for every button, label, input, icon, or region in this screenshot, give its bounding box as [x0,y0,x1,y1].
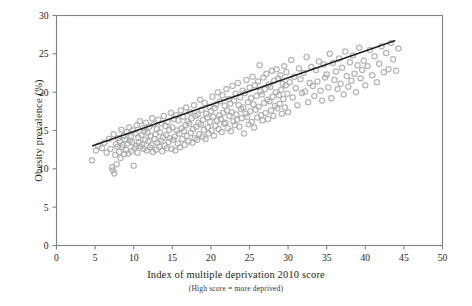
scatter-point [255,79,260,84]
scatter-point [286,110,291,115]
scatter-point [254,93,259,98]
scatter-point [235,80,240,85]
scatter-point [220,93,225,98]
x-tick-label: 0 [54,252,59,263]
scatter-point [234,112,239,117]
scatter-point [119,127,124,132]
scatter-point [349,78,354,83]
scatter-point [228,129,233,134]
scatter-point [279,87,284,92]
scatter-point [343,49,348,54]
scatter-point [340,65,345,70]
x-axis-title: Index of multiple deprivation 2010 score [0,269,472,280]
scatter-point [224,87,229,92]
scatter-point [244,77,249,82]
scatter-point [206,131,211,136]
scatter-point [184,105,189,110]
y-tick-label: 0 [44,240,49,251]
scatter-point [355,63,360,68]
scatter-point [319,98,324,103]
scatter-point [225,126,230,131]
scatter-point [293,86,298,91]
scatter-point [247,85,252,90]
scatter-point [216,126,221,131]
y-tick-label: 5 [44,202,49,213]
scatter-point [210,94,215,99]
scatter-point [353,90,358,95]
scatter-point [295,103,300,108]
scatter-point [344,73,349,78]
scatter-point [312,93,317,98]
scatter-point-group [89,41,401,177]
scatter-point [304,54,309,59]
scatter-point [338,81,343,86]
x-tick-label: 25 [245,252,255,263]
scatter-point [256,104,261,109]
x-tick-label: 5 [93,252,98,263]
scatter-point [307,80,312,85]
scatter-point [396,46,401,51]
scatter-point [150,116,155,121]
scatter-point [296,66,301,71]
scatter-point [298,77,303,82]
scatter-point [211,133,216,138]
scatter-point [114,162,119,167]
plot-canvas: 05101520253035404550 051015202530 [0,0,472,306]
scatter-point [306,100,311,105]
scatter-point [327,51,332,56]
scatter-point [279,111,284,116]
scatter-point [253,107,258,112]
scatter-point [360,67,365,72]
scatter-point [260,118,265,123]
trend-line-segment [93,41,395,146]
scatter-point [326,85,331,90]
x-tick-label: 35 [322,252,332,263]
scatter-point [248,96,253,101]
scatter-point [209,128,214,133]
scatter-point [394,68,399,73]
scatter-point [290,95,295,100]
scatter-point [242,131,247,136]
scatter-point [131,163,136,168]
scatter-point [230,83,235,88]
x-tick-label: 40 [361,252,371,263]
scatter-point [89,158,94,163]
scatter-point [191,103,196,108]
scatter-point [168,110,173,115]
scatter-point [352,71,357,76]
scatter-point [281,96,286,101]
scatter-point [178,108,183,113]
scatter-point [277,101,282,106]
scatter-point [137,119,142,124]
scatter-point [390,57,395,62]
scatter-point [257,63,262,68]
trend-line [93,41,395,146]
scatter-point [252,125,257,130]
scatter-point [377,61,382,66]
scatter-point [263,110,268,115]
scatter-point [361,58,366,63]
scatter-point [208,119,213,124]
scatter-point [273,90,278,95]
scatter-point [135,150,140,155]
scatter-point [347,60,352,65]
scatter-point [251,102,256,107]
scatter-point [333,69,338,74]
x-tick-label: 50 [438,252,448,263]
scatter-point [271,113,276,118]
x-tick-label: 45 [399,252,409,263]
scatter-point [329,96,334,101]
scatter-point [262,100,267,105]
scatter-point [284,70,289,75]
scatter-point [231,98,236,103]
scatter-point [370,73,375,78]
scatter-point [154,126,159,131]
scatter-point [341,92,346,97]
scatter-point [213,123,218,128]
x-tick-label: 10 [129,252,139,263]
scatter-point [332,77,337,82]
scatter-point [202,100,207,105]
scatter-point [374,80,379,85]
scatter-point [108,146,113,151]
scatter-point [219,129,224,134]
